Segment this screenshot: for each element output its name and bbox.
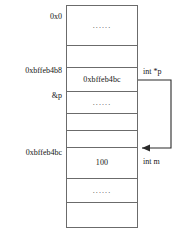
memory-row-3: 0xbffeb4bc [67,68,137,92]
memory-row-2 [67,46,137,68]
memory-cell-value: ...... [93,99,112,107]
memory-row-9 [67,203,137,227]
pointer-arrow-connector [130,60,181,170]
memory-row-6 [67,131,137,148]
memory-layout-diagram: 0x0 0xbffeb4b8 &p 0xbffeb4bc ...... 0xbf… [0,0,181,242]
memory-cell-value: 0xbffeb4bc [83,76,120,84]
memory-row-7: 100 [67,148,137,179]
memory-row-8: ...... [67,179,137,203]
arrowhead-icon [142,144,150,151]
label-pointer-address: 0xbffeb4b8 [2,67,66,75]
memory-row-1: ...... [67,6,137,46]
memory-cell-value: 100 [96,159,108,167]
memory-table: ...... 0xbffeb4bc ...... 100 ...... [66,5,138,228]
memory-row-4: ...... [67,92,137,114]
memory-row-5 [67,114,137,131]
label-top-address: 0x0 [2,13,66,21]
label-target-address: 0xbffeb4bc [2,149,66,157]
address-label-column: 0x0 0xbffeb4b8 &p 0xbffeb4bc [0,5,66,228]
memory-cell-value: ...... [93,187,112,195]
label-pointer-symbol: &p [2,92,66,100]
memory-cell-value: ...... [93,22,112,30]
